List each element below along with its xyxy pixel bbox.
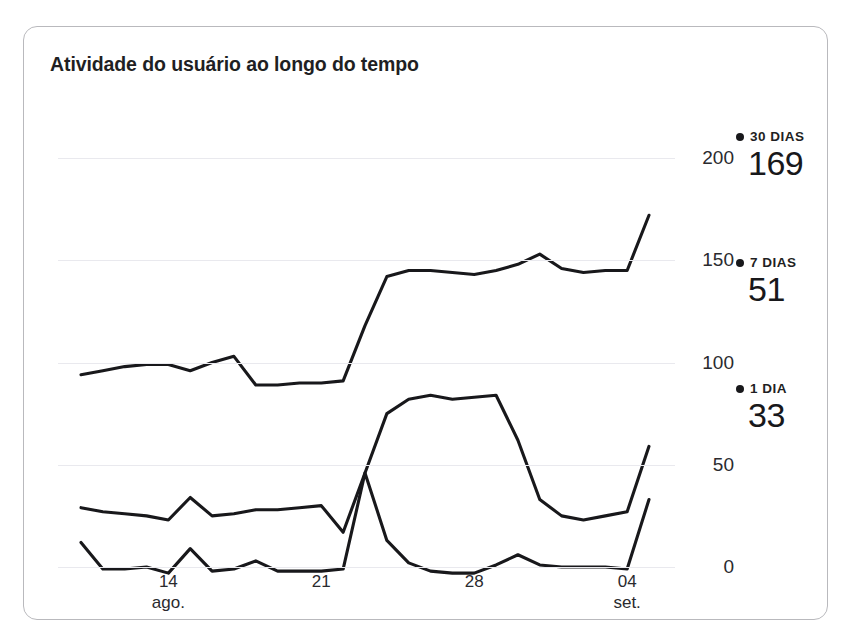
y-axis-tick-100: 100: [682, 352, 734, 374]
gridline-100: [58, 363, 675, 364]
legend-item-header: 7 DIAS: [736, 255, 847, 270]
series-line-7-dias: [81, 395, 649, 532]
legend-dot-icon: [736, 133, 744, 141]
legend-item-7-dias[interactable]: 7 DIAS51: [736, 255, 847, 308]
legend-item-value: 169: [748, 146, 847, 182]
x-axis-tick-04: 04set.: [613, 571, 640, 614]
x-axis-tick-28: 28: [465, 571, 484, 592]
legend-item-value: 51: [748, 272, 847, 308]
chart-plot-area: 20015010050014ago.212804set.: [34, 103, 819, 603]
y-axis-tick-200: 200: [682, 147, 734, 169]
legend-item-1-dia[interactable]: 1 DIA33: [736, 381, 847, 434]
gridline-50: [58, 465, 675, 466]
screenshot-root: Atividade do usuário ao longo do tempo 2…: [0, 0, 847, 639]
x-axis-tick-21: 21: [312, 571, 331, 592]
y-axis-tick-150: 150: [682, 249, 734, 271]
gridline-200: [58, 158, 675, 159]
gridline-150: [58, 260, 675, 261]
legend-item-header: 1 DIA: [736, 381, 847, 396]
series-line-1-dia: [81, 473, 649, 573]
y-axis-tick-0: 0: [682, 556, 734, 578]
legend-item-label: 7 DIAS: [750, 255, 797, 270]
legend-item-header: 30 DIAS: [736, 129, 847, 144]
legend-item-label: 30 DIAS: [750, 129, 805, 144]
legend-dot-icon: [736, 385, 744, 393]
chart-card: Atividade do usuário ao longo do tempo 2…: [23, 26, 828, 620]
legend-item-value: 33: [748, 398, 847, 434]
legend-item-30-dias[interactable]: 30 DIAS169: [736, 129, 847, 182]
x-axis-tick-14: 14ago.: [152, 571, 185, 614]
series-line-30-dias: [81, 215, 649, 385]
y-axis-tick-50: 50: [682, 454, 734, 476]
gridline-0: [58, 567, 675, 568]
page-title: Atividade do usuário ao longo do tempo: [50, 53, 419, 76]
legend-item-label: 1 DIA: [750, 381, 787, 396]
legend-dot-icon: [736, 259, 744, 267]
